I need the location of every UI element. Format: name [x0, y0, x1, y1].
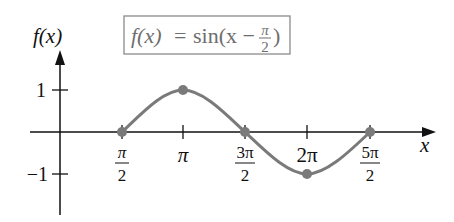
svg-text:3π: 3π	[236, 143, 254, 162]
svg-text:2π: 2π	[296, 143, 318, 167]
title-rhs-prefix: sin(x −	[193, 23, 255, 48]
point-5pi-over-2	[365, 127, 375, 137]
title-lhs: f(x)	[131, 23, 162, 48]
title-equals: =	[174, 23, 186, 48]
svg-text:π: π	[178, 143, 189, 167]
title-rhs-suffix: )	[273, 23, 280, 48]
y-tick-label-1: 1	[36, 79, 46, 101]
svg-text:2: 2	[366, 166, 375, 185]
x-tick-label-2pi: 2π	[296, 143, 318, 167]
point-3pi-over-2	[240, 127, 250, 137]
point-pi-over-2	[117, 127, 127, 137]
svg-text:2: 2	[118, 166, 127, 185]
x-tick-label-pi: π	[178, 143, 189, 167]
x-tick-label-3pi-over-2: 3π 2	[235, 143, 255, 185]
point-2pi-min	[302, 169, 312, 179]
x-tick-label-5pi-over-2: 5π 2	[360, 143, 380, 185]
y-tick-label-neg1: −1	[27, 163, 48, 185]
x-tick-label-pi-over-2: π 2	[115, 143, 129, 185]
point-pi-max	[178, 85, 188, 95]
title-frac-den: 2	[261, 39, 269, 55]
svg-text:5π: 5π	[361, 143, 379, 162]
sine-graph-figure: f(x) = sin(x − π 2 ) f(x) x 1 −1 π 2	[0, 0, 454, 222]
x-axis-label: x	[419, 133, 430, 157]
title-frac-num: π	[261, 22, 269, 38]
svg-text:2: 2	[241, 166, 250, 185]
y-axis-label: f(x)	[33, 24, 62, 48]
function-title-box: f(x) = sin(x − π 2 )	[124, 16, 290, 55]
y-axis-arrow-icon	[55, 50, 65, 65]
svg-text:π: π	[118, 143, 127, 162]
